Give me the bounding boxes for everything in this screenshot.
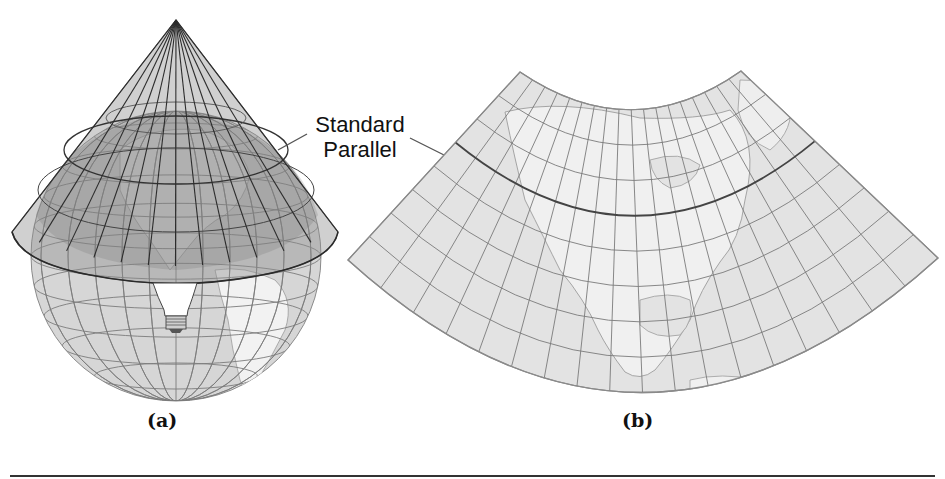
standard-parallel-callout: Standard Parallel — [300, 112, 420, 162]
figure-art — [0, 0, 945, 479]
globe-illustration — [12, 20, 338, 401]
panel-label-b: (b) — [622, 409, 653, 431]
callout-line-2: Parallel — [300, 137, 420, 162]
callout-line-1: Standard — [300, 112, 420, 137]
bottom-rule — [10, 475, 935, 477]
conic-projection-map — [348, 71, 938, 395]
panel-label-a: (a) — [147, 409, 177, 431]
